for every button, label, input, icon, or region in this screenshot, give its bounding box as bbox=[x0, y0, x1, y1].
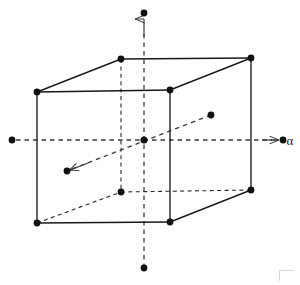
vertex-back-bottom-right bbox=[248, 187, 255, 194]
vertex-front-bottom-right bbox=[167, 219, 174, 226]
edge-ftl-ftr bbox=[37, 90, 170, 92]
edge-ftr-btr bbox=[170, 58, 251, 90]
vertex-front-top-left bbox=[34, 89, 41, 96]
edge-fbr-bbr bbox=[170, 190, 251, 222]
vertex-front-top-right bbox=[167, 87, 174, 94]
cube-centre-marker bbox=[140, 136, 147, 143]
cube-axes-figure: α bbox=[0, 0, 300, 285]
edge-fbl-bbl bbox=[37, 192, 121, 223]
scan-corner-artifact bbox=[279, 270, 294, 281]
oblique-axis bbox=[70, 115, 211, 170]
vertex-front-bottom-left bbox=[34, 220, 41, 227]
axis-group bbox=[16, 19, 278, 268]
alpha-axis-label: α bbox=[287, 133, 294, 148]
axis-dot-bottom bbox=[141, 265, 148, 272]
axis-dot-front bbox=[64, 168, 71, 175]
axis-dot-left bbox=[9, 137, 16, 144]
edge-fbl-fbr bbox=[37, 222, 170, 223]
axis-dot-back bbox=[208, 112, 215, 119]
vertex-back-bottom-left bbox=[118, 189, 125, 196]
axis-dot-right bbox=[280, 137, 287, 144]
cube-diagram-canvas: α bbox=[0, 0, 300, 285]
edge-ftl-btl bbox=[37, 59, 121, 92]
edge-bbl-bbr bbox=[121, 190, 251, 192]
axis-dot-top bbox=[141, 10, 148, 17]
vertex-back-top-right bbox=[248, 55, 255, 62]
vertex-back-top-left bbox=[118, 56, 125, 63]
edge-btl-btr bbox=[121, 58, 251, 59]
oblique-axis-arrow bbox=[70, 163, 88, 170]
